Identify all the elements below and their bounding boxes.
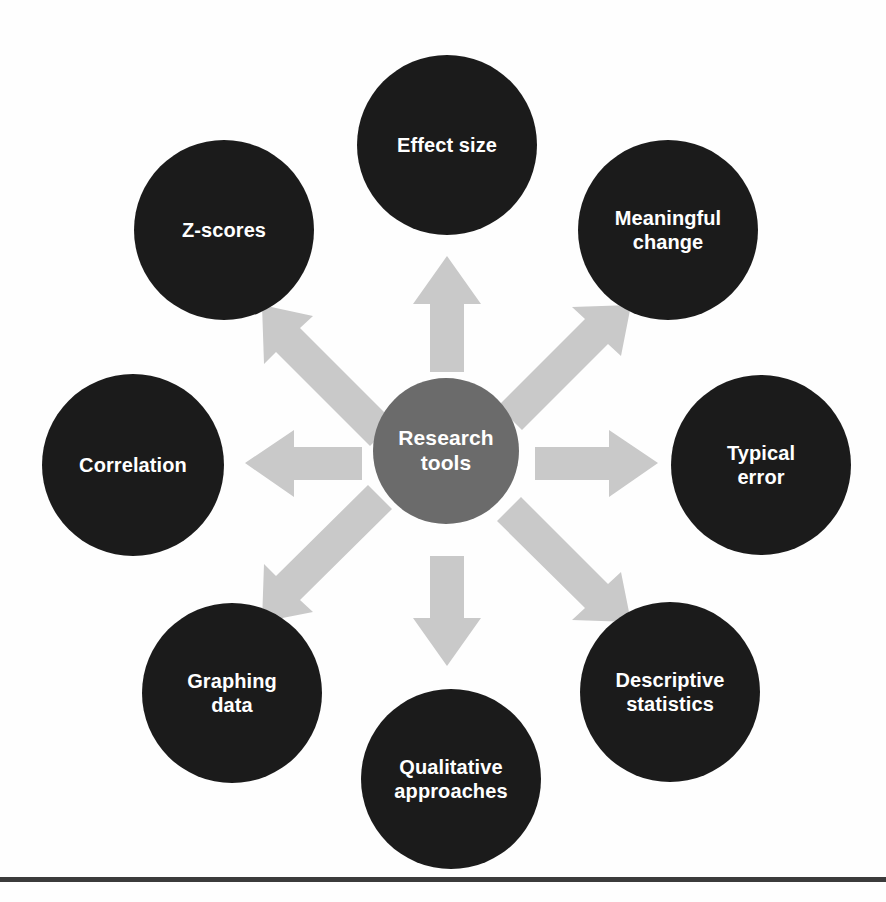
arrow-down <box>413 556 481 666</box>
node-meaningful-change[interactable]: Meaningful change <box>578 140 758 320</box>
arrow-down-right <box>497 497 631 622</box>
diagram-canvas: Effect size Meaningful change Typical er… <box>0 0 886 902</box>
node-label: Z-scores <box>172 218 276 242</box>
node-z-scores[interactable]: Z-scores <box>134 140 314 320</box>
node-label: Correlation <box>69 453 197 477</box>
node-label: Qualitative approaches <box>384 755 517 803</box>
hub-label: Research tools <box>388 426 503 476</box>
arrow-left <box>245 430 362 497</box>
arrow-up-right <box>498 305 631 430</box>
bottom-divider <box>0 877 886 882</box>
hub-research-tools[interactable]: Research tools <box>373 378 519 524</box>
node-label: Meaningful change <box>605 206 732 254</box>
arrow-up <box>413 256 481 372</box>
node-effect-size[interactable]: Effect size <box>357 55 537 235</box>
node-label: Typical error <box>717 441 805 489</box>
node-label: Descriptive statistics <box>606 668 735 716</box>
node-graphing-data[interactable]: Graphing data <box>142 603 322 783</box>
arrow-down-left <box>262 485 392 622</box>
node-label: Graphing data <box>177 669 287 717</box>
node-descriptive-statistics[interactable]: Descriptive statistics <box>580 602 760 782</box>
node-qualitative-approaches[interactable]: Qualitative approaches <box>361 689 541 869</box>
arrow-right <box>535 430 658 497</box>
arrow-up-left <box>262 305 394 446</box>
node-typical-error[interactable]: Typical error <box>671 375 851 555</box>
node-correlation[interactable]: Correlation <box>42 374 224 556</box>
node-label: Effect size <box>387 133 507 157</box>
